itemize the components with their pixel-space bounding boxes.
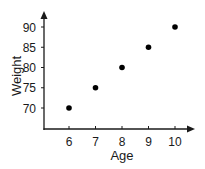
y-axis-title: Weight	[9, 56, 24, 97]
y-tick-label: 75	[23, 81, 37, 95]
x-axis-arrow-icon	[187, 126, 195, 133]
y-tick-label: 90	[23, 21, 37, 35]
x-tick-label: 10	[168, 135, 182, 149]
scatter-chart: 7075808590 678910 Weight Age	[0, 0, 205, 169]
x-tick-label: 7	[92, 135, 99, 149]
y-tick-label: 70	[23, 102, 37, 116]
y-tick-label: 80	[23, 61, 37, 75]
x-axis-title: Age	[110, 148, 133, 163]
data-point	[66, 105, 72, 111]
y-ticks: 7075808590	[23, 21, 44, 116]
data-points	[66, 24, 178, 111]
x-tick-label: 8	[119, 135, 126, 149]
data-point	[172, 24, 178, 30]
y-axis-arrow-icon	[41, 11, 48, 19]
data-point	[119, 65, 125, 71]
x-tick-label: 6	[66, 135, 73, 149]
data-point	[93, 85, 99, 91]
y-tick-label: 85	[23, 41, 37, 55]
axes	[41, 11, 196, 133]
data-point	[146, 44, 152, 50]
x-tick-label: 9	[145, 135, 152, 149]
